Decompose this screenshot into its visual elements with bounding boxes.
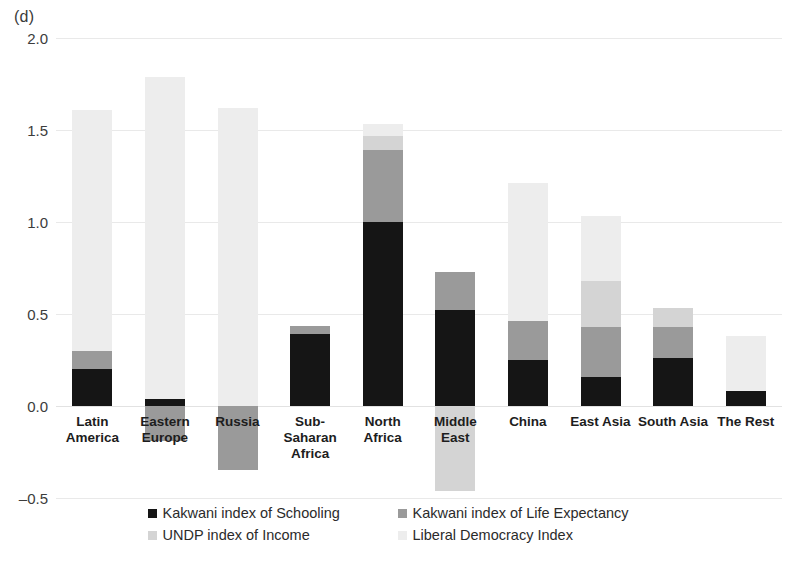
legend-row: Kakwani index of SchoolingKakwani index …: [148, 505, 648, 521]
legend-label: Kakwani index of Schooling: [163, 505, 340, 521]
bar-segment: [218, 108, 258, 406]
bar-segment: [581, 216, 621, 280]
bar-segment: [145, 399, 185, 406]
category-label-china: China: [492, 414, 565, 430]
legend-label: UNDP index of Income: [163, 527, 310, 543]
legend-row: UNDP index of IncomeLiberal Democracy In…: [148, 527, 648, 543]
category-label-east-asia: East Asia: [564, 414, 637, 430]
category-label-latin-america: Latin America: [56, 414, 129, 446]
legend-item[interactable]: UNDP index of Income: [148, 527, 398, 543]
category-label-eastern-europe: Eastern Europe: [129, 414, 202, 446]
legend-label: Kakwani index of Life Expectancy: [413, 505, 629, 521]
bar-segment: [363, 124, 403, 135]
y-tick-label: 0.0: [27, 398, 48, 415]
legend-swatch-icon: [148, 531, 157, 540]
bar-segment: [581, 327, 621, 377]
legend-item[interactable]: Kakwani index of Schooling: [148, 505, 398, 521]
legend-swatch-icon: [398, 509, 407, 518]
y-tick-label: –0.5: [19, 490, 48, 507]
bar-segment: [726, 391, 766, 406]
legend-item[interactable]: Kakwani index of Life Expectancy: [398, 505, 648, 521]
legend-label: Liberal Democracy Index: [413, 527, 573, 543]
bar-segment: [581, 377, 621, 406]
category-label-sub-saharan-africa: Sub- Saharan Africa: [274, 414, 347, 462]
category-label-russia: Russia: [201, 414, 274, 430]
panel-label: (d): [14, 8, 34, 26]
bar-segment: [290, 326, 330, 334]
plot-area: 2.01.51.00.50.0–0.5 Latin AmericaEastern…: [56, 38, 782, 498]
bar-segment: [363, 136, 403, 151]
y-tick-label: 0.5: [27, 306, 48, 323]
bar-segment: [726, 336, 766, 391]
bar-segment: [653, 308, 693, 326]
bar-segment: [72, 351, 112, 369]
bar-segment: [653, 327, 693, 358]
category-label-north-africa: North Africa: [346, 414, 419, 446]
bar-segment: [72, 110, 112, 351]
chart-figure: (d) 2.01.51.00.50.0–0.5 Latin AmericaEas…: [0, 0, 795, 571]
gridline--0-5: [56, 498, 782, 499]
bar-segment: [72, 369, 112, 406]
bar-segment: [508, 183, 548, 321]
bar-segment: [653, 358, 693, 406]
bar-segment: [363, 222, 403, 406]
legend-swatch-icon: [398, 531, 407, 540]
chart-legend: Kakwani index of SchoolingKakwani index …: [0, 505, 795, 543]
bar-segment: [435, 310, 475, 406]
bar-segment: [290, 334, 330, 406]
bar-segment: [435, 272, 475, 311]
category-label-middle-east: Middle East: [419, 414, 492, 446]
bar-segment: [581, 281, 621, 327]
category-label-south-asia: South Asia: [637, 414, 710, 430]
y-tick-label: 1.5: [27, 122, 48, 139]
bar-segment: [508, 360, 548, 406]
y-tick-label: 1.0: [27, 214, 48, 231]
category-label-the-rest: The Rest: [709, 414, 782, 430]
legend-item[interactable]: Liberal Democracy Index: [398, 527, 648, 543]
bar-segment: [363, 150, 403, 222]
y-tick-label: 2.0: [27, 30, 48, 47]
legend-swatch-icon: [148, 509, 157, 518]
bar-segment: [508, 321, 548, 360]
bar-segment: [145, 77, 185, 399]
